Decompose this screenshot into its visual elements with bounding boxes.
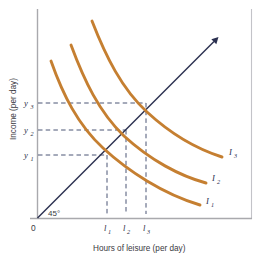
svg-text:2: 2 (127, 228, 130, 235)
y-tick-label-2: y 2 (23, 125, 34, 137)
svg-text:2: 2 (217, 178, 220, 185)
svg-text:3: 3 (30, 103, 34, 110)
indifference-curve-2 (71, 45, 206, 183)
curve-label-3: I 3 (228, 147, 237, 159)
svg-text:3: 3 (233, 152, 237, 159)
forty-five-degree-label: 45° (48, 209, 60, 218)
y-axis-title: Income (per day) (9, 78, 18, 140)
x-tick-label-2: l 2 (123, 223, 130, 235)
svg-text:2: 2 (31, 130, 34, 137)
x-tick-label-1: l 1 (104, 223, 111, 235)
svg-text:1: 1 (108, 228, 111, 235)
svg-text:I: I (228, 147, 233, 157)
curve-label-1: I 1 (205, 196, 214, 208)
y-tick-label-3: y 3 (23, 98, 34, 110)
indifference-curve-chart: Income (per day) Hours of leisure (per d… (0, 0, 275, 261)
svg-text:y: y (23, 125, 28, 135)
svg-text:I: I (205, 196, 210, 206)
svg-text:l: l (123, 223, 126, 233)
guide-lines-equilibrium-3 (38, 103, 146, 214)
y-tick-label-1: y 1 (23, 150, 34, 162)
svg-text:I: I (211, 173, 216, 183)
svg-text:1: 1 (31, 155, 34, 162)
svg-text:1: 1 (211, 201, 214, 208)
origin-label: 0 (31, 223, 36, 233)
indifference-curve-3 (92, 21, 222, 157)
svg-text:y: y (23, 150, 28, 160)
svg-text:3: 3 (146, 228, 150, 235)
guide-lines-equilibrium-1 (38, 155, 107, 214)
x-tick-label-3: l 3 (143, 223, 150, 235)
curve-label-2: I 2 (211, 173, 220, 185)
x-axis-title: Hours of leisure (per day) (93, 244, 186, 253)
svg-text:y: y (23, 98, 28, 108)
svg-text:l: l (104, 223, 107, 233)
forty-five-degree-ray (38, 37, 219, 218)
svg-text:l: l (143, 223, 146, 233)
